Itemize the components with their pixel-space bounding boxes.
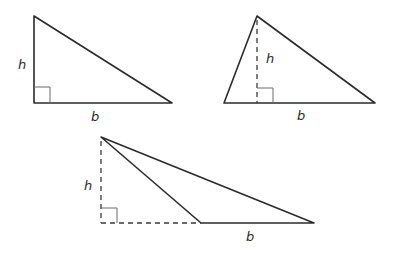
triangle-outline <box>34 16 172 103</box>
right-angle-marker <box>101 208 117 223</box>
height-label: h <box>266 51 274 66</box>
triangle-outline <box>224 16 375 103</box>
obtuse-triangle: h b <box>84 137 314 244</box>
right-triangle: h b <box>18 16 172 124</box>
triangle-area-diagram: h b h b h b <box>0 0 393 254</box>
triangle-outline <box>101 137 314 223</box>
base-label: b <box>246 229 254 244</box>
right-angle-marker <box>34 87 50 103</box>
height-label: h <box>18 57 26 72</box>
right-angle-marker <box>257 88 273 103</box>
height-label: h <box>84 178 92 193</box>
base-label: b <box>91 109 99 124</box>
acute-triangle: h b <box>224 16 375 123</box>
base-label: b <box>297 108 305 123</box>
